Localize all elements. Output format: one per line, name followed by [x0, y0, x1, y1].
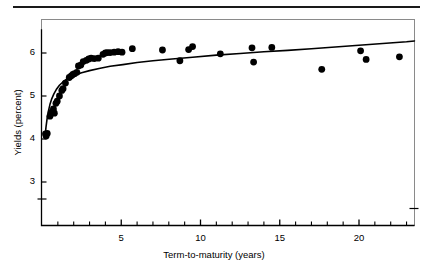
data-point [51, 110, 58, 117]
data-point [176, 57, 183, 64]
y-tick-label: 5 [15, 89, 35, 100]
data-point [44, 130, 51, 137]
x-tick-label: 5 [106, 232, 136, 243]
data-point [318, 66, 325, 73]
y-axis-label: Yields (percent) [12, 68, 23, 178]
x-tick-label: 15 [265, 232, 295, 243]
data-point [268, 44, 275, 51]
data-point [73, 69, 80, 76]
data-point [250, 59, 257, 66]
data-point [249, 44, 256, 51]
scatter-points [42, 43, 403, 139]
y-tick-label: 6 [15, 46, 35, 57]
x-tick-label: 10 [186, 232, 216, 243]
data-point [217, 50, 224, 57]
x-axis-label: Term-to-maturity (years) [0, 249, 428, 260]
data-point [119, 49, 126, 56]
data-point [189, 43, 196, 50]
y-tick-label: 3 [15, 175, 35, 186]
y-tick-label: 4 [15, 132, 35, 143]
x-tick-label: 20 [344, 232, 374, 243]
data-point [396, 53, 403, 60]
data-point [62, 80, 69, 87]
data-point [357, 47, 364, 54]
data-point [363, 56, 370, 63]
data-point [159, 47, 166, 54]
chart-figure: Yields (percent) Term-to-maturity (years… [0, 0, 428, 272]
data-point [129, 45, 136, 52]
